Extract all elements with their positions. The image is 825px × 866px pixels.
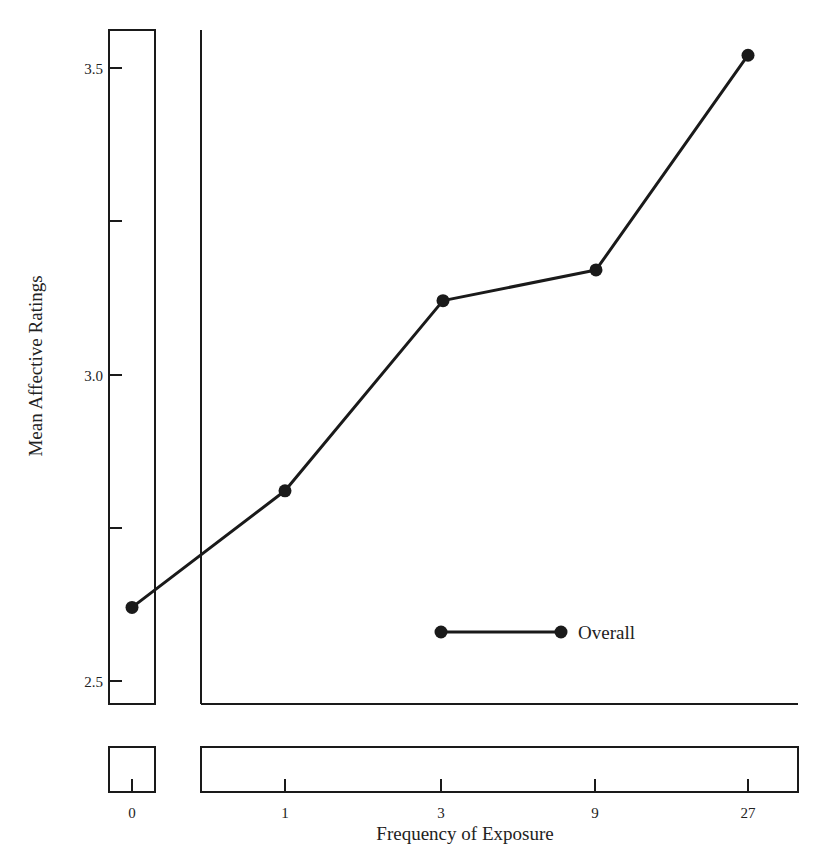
data-point-0 bbox=[126, 601, 139, 614]
legend-marker-icon bbox=[435, 626, 448, 639]
x-tick-label: 27 bbox=[741, 805, 757, 821]
y-tick-labels: 3.5 3.0 2.5 bbox=[84, 61, 103, 690]
y-tick-label: 2.5 bbox=[84, 674, 103, 690]
y-axis-title: Mean Affective Ratings bbox=[25, 275, 46, 456]
y-tick-label: 3.5 bbox=[84, 61, 103, 77]
y-axis-ticks bbox=[109, 68, 122, 681]
x-axis-box bbox=[201, 747, 798, 792]
x-tick-label: 3 bbox=[437, 805, 445, 821]
data-point-9 bbox=[590, 263, 603, 276]
x-axis-ticks bbox=[132, 779, 748, 792]
x-axis-title: Frequency of Exposure bbox=[376, 823, 553, 844]
data-point-27 bbox=[742, 49, 755, 62]
line-chart: 3.5 3.0 2.5 Mean Affective Ratings 0 1 3… bbox=[0, 0, 825, 866]
x-tick-label: 1 bbox=[281, 805, 289, 821]
legend-marker-icon bbox=[555, 626, 568, 639]
series-line-overall bbox=[132, 55, 748, 607]
data-point-3 bbox=[437, 294, 450, 307]
y-tick-label: 3.0 bbox=[84, 368, 103, 384]
series-overall bbox=[126, 49, 755, 614]
legend-label-overall: Overall bbox=[578, 622, 635, 643]
data-point-1 bbox=[279, 484, 292, 497]
x-tick-labels: 0 1 3 9 27 bbox=[128, 805, 756, 821]
x-tick-label: 9 bbox=[591, 805, 599, 821]
series-markers bbox=[126, 49, 755, 614]
x-tick-label: 0 bbox=[128, 805, 136, 821]
legend: Overall bbox=[435, 622, 635, 643]
